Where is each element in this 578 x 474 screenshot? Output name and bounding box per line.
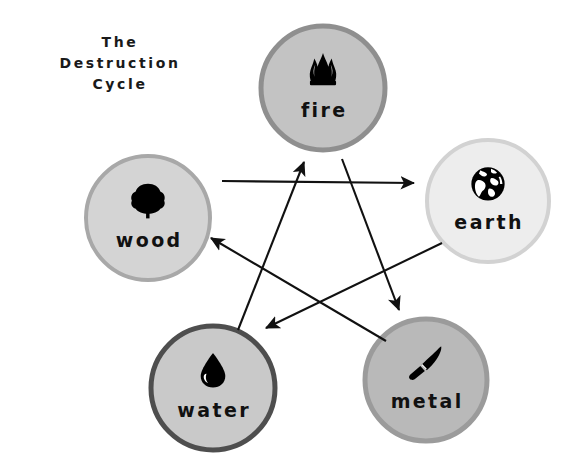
arrow-wood-to-earth (222, 181, 414, 183)
destruction-cycle-diagram: The Destruction Cycle (0, 0, 578, 474)
node-wood-label: wood (116, 229, 183, 251)
node-earth-label: earth (454, 211, 524, 233)
node-metal-circle[interactable] (365, 319, 487, 441)
node-water[interactable]: water (151, 326, 275, 450)
node-fire-circle[interactable] (261, 26, 385, 150)
node-water-circle[interactable] (151, 326, 275, 450)
cycle-canvas: fire wood earth water metal (0, 0, 578, 474)
node-metal-label: metal (391, 390, 464, 412)
node-metal[interactable]: metal (365, 319, 487, 441)
node-fire-label: fire (301, 99, 348, 121)
node-water-label: water (177, 399, 251, 421)
arrow-metal-to-wood (211, 238, 386, 341)
arrow-water-to-fire (238, 162, 304, 330)
node-wood[interactable]: wood (86, 156, 210, 280)
node-fire[interactable]: fire (261, 26, 385, 150)
cycle-arrows (211, 159, 442, 341)
globe-icon (471, 167, 504, 200)
node-earth-circle[interactable] (427, 140, 549, 262)
node-earth[interactable]: earth (427, 140, 549, 262)
